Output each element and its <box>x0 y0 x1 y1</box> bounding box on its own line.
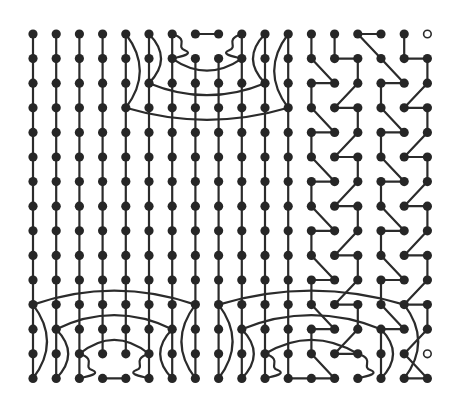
zigzag-edge <box>335 231 358 256</box>
graph-node <box>284 275 293 284</box>
graph-node <box>376 54 385 63</box>
graph-node <box>168 275 177 284</box>
graph-node <box>400 349 409 358</box>
graph-node <box>260 349 269 358</box>
graph-node <box>353 349 362 358</box>
graph-node <box>168 300 177 309</box>
zigzag-edge <box>381 255 404 280</box>
graph-node <box>98 177 107 186</box>
graph-node <box>121 29 130 38</box>
zigzag-edge <box>311 206 334 231</box>
graph-node <box>168 152 177 161</box>
graph-node <box>121 275 130 284</box>
graph-node <box>423 300 432 309</box>
graph-node <box>52 54 61 63</box>
graph-node <box>400 275 409 284</box>
zigzag-edge <box>335 182 358 207</box>
graph-node <box>376 349 385 358</box>
graph-node <box>144 226 153 235</box>
graph-node <box>121 177 130 186</box>
graph-node <box>98 374 107 383</box>
graph-node <box>191 325 200 334</box>
graph-node <box>237 349 246 358</box>
zigzag-edge <box>404 182 427 207</box>
graph-node <box>214 374 223 383</box>
zigzag-edge <box>311 157 334 182</box>
zigzag-edge <box>381 108 404 133</box>
graph-node <box>168 128 177 137</box>
zigzag-edge <box>404 280 427 305</box>
graph-node <box>75 374 84 383</box>
graph-node <box>260 300 269 309</box>
graph-node <box>353 177 362 186</box>
graph-node <box>214 226 223 235</box>
zigzag-edge <box>311 59 334 84</box>
graph-node <box>353 300 362 309</box>
graph-node <box>75 152 84 161</box>
graph-node <box>214 177 223 186</box>
graph-node <box>191 79 200 88</box>
graph-node <box>75 177 84 186</box>
graph-node <box>214 251 223 260</box>
graph-node <box>28 79 37 88</box>
graph-node <box>376 226 385 235</box>
graph-node <box>330 29 339 38</box>
graph-node <box>423 177 432 186</box>
graph-node <box>260 325 269 334</box>
graph-node <box>237 103 246 112</box>
graph-node <box>307 29 316 38</box>
graph-node <box>423 103 432 112</box>
graph-node <box>214 152 223 161</box>
zigzag-edge <box>381 305 404 330</box>
arc-edge <box>79 340 149 354</box>
graph-node <box>214 103 223 112</box>
graph-node <box>237 128 246 137</box>
graph-node <box>121 54 130 63</box>
graph-node <box>121 251 130 260</box>
graph-node <box>28 54 37 63</box>
arc-edge <box>172 59 242 71</box>
side-curve-edge <box>274 34 288 108</box>
graph-node <box>376 202 385 211</box>
empty-node <box>424 30 432 38</box>
graph-node <box>260 103 269 112</box>
graph-node <box>191 177 200 186</box>
graph-node <box>52 103 61 112</box>
graph-node <box>400 374 409 383</box>
graph-node <box>237 54 246 63</box>
zigzag-edge <box>381 157 404 182</box>
graph-node <box>353 226 362 235</box>
graph-node <box>376 29 385 38</box>
graph-node <box>330 54 339 63</box>
graph-node <box>28 300 37 309</box>
graph-node <box>98 103 107 112</box>
graph-node <box>214 29 223 38</box>
graph-node <box>284 202 293 211</box>
graph-node <box>376 374 385 383</box>
graph-node <box>52 374 61 383</box>
graph-node <box>330 128 339 137</box>
graph-node <box>423 128 432 137</box>
zigzag-edge <box>358 34 381 59</box>
graph-node <box>191 349 200 358</box>
graph-node <box>307 79 316 88</box>
graph-node <box>330 374 339 383</box>
graph-node <box>144 300 153 309</box>
graph-node <box>260 202 269 211</box>
graph-node <box>191 275 200 284</box>
side-curve-edge <box>181 305 195 379</box>
graph-node <box>121 103 130 112</box>
graph-node <box>284 152 293 161</box>
graph-node <box>191 202 200 211</box>
graph-node <box>121 325 130 334</box>
graph-node <box>237 275 246 284</box>
graph-node <box>98 325 107 334</box>
graph-node <box>260 226 269 235</box>
graph-node <box>121 374 130 383</box>
graph-node <box>191 251 200 260</box>
graph-node <box>400 226 409 235</box>
graph-node <box>353 275 362 284</box>
graph-node <box>191 54 200 63</box>
graph-node <box>28 177 37 186</box>
graph-node <box>284 300 293 309</box>
